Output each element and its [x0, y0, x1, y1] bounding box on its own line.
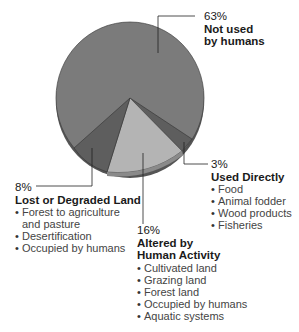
label-not-used: 63% Not used by humans	[204, 10, 265, 48]
label-altered: 16% Altered by Human Activity Cultivated…	[137, 224, 247, 322]
label-lost-degraded: 8% Lost or Degraded Land Forest to agric…	[15, 181, 141, 254]
label-used-directly: 3% Used Directly Food Animal fodder Wood…	[211, 158, 292, 231]
